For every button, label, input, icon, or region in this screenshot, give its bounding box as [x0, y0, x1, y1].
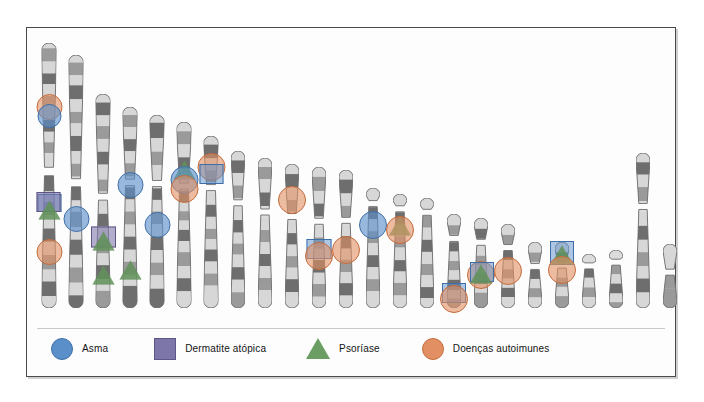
chromosome-10 [277, 28, 307, 328]
chromosome-13 [358, 28, 388, 328]
circle-blue-icon [51, 338, 73, 360]
karyogram-panel [27, 28, 675, 328]
chromosome-14 [385, 28, 415, 328]
chromosome-body-13 [366, 188, 380, 308]
legend-label-doencas-autoimunes: Doenças autoimunes [453, 343, 550, 354]
legend-item-asma: Asma [51, 338, 108, 360]
chromosome-18 [493, 28, 523, 328]
chromosome-Y [655, 28, 685, 328]
chromosome-body-21 [582, 254, 596, 308]
chromosome-body-Y [663, 244, 677, 308]
chromosome-11 [304, 28, 334, 328]
chromosome-21 [574, 28, 604, 328]
chromosome-body-11 [312, 167, 326, 308]
chromosome-body-X [636, 153, 650, 308]
chromosome-2 [61, 28, 91, 328]
chromosome-body-3 [96, 94, 111, 308]
chromosome-3 [88, 28, 118, 328]
chromosome-body-16 [447, 214, 461, 308]
chromosome-17 [466, 28, 496, 328]
figure-frame: Asma Dermatite atópica Psoríase Doenças … [26, 27, 676, 377]
chromosome-body-7 [204, 136, 219, 308]
chromosome-body-14 [393, 194, 407, 308]
chromosome-body-6 [177, 122, 192, 308]
legend-item-dermatite-atopica: Dermatite atópica [154, 338, 266, 360]
chromosome-5 [142, 28, 172, 328]
legend-label-dermatite-atopica: Dermatite atópica [185, 343, 266, 354]
chromosome-7 [196, 28, 226, 328]
chromosome-9 [250, 28, 280, 328]
legend-label-psoriase: Psoríase [339, 343, 380, 354]
circle-orange-icon [422, 338, 444, 360]
chromosome-body-18 [501, 224, 515, 308]
chromosome-19 [520, 28, 550, 328]
chromosome-1 [34, 28, 64, 328]
chromosome-body-2 [69, 55, 84, 308]
triangle-green-icon [306, 338, 330, 359]
chromosome-16 [439, 28, 469, 328]
chromosome-body-4 [123, 107, 138, 308]
chromosome-22 [601, 28, 631, 328]
chromosome-4 [115, 28, 145, 328]
chromosome-body-20 [555, 242, 569, 308]
chromosome-body-5 [150, 115, 165, 308]
legend-label-asma: Asma [82, 343, 108, 354]
square-purple-icon [154, 338, 176, 360]
chromosome-body-10 [285, 164, 299, 308]
chromosome-body-9 [258, 158, 272, 308]
chromosome-body-22 [609, 250, 623, 308]
chromosome-body-8 [231, 151, 245, 308]
chromosome-body-12 [339, 170, 353, 308]
legend-item-doencas-autoimunes: Doenças autoimunes [422, 338, 550, 360]
chromosome-body-1 [42, 43, 57, 308]
chromosome-X [628, 28, 658, 328]
legend-item-psoriase: Psoríase [306, 338, 380, 359]
chromosome-6 [169, 28, 199, 328]
chromosome-body-19 [528, 242, 542, 308]
chromosome-body-15 [420, 198, 434, 308]
chromosome-body-17 [474, 218, 488, 308]
chromosome-20 [547, 28, 577, 328]
legend: Asma Dermatite atópica Psoríase Doenças … [37, 328, 665, 368]
chromosome-8 [223, 28, 253, 328]
chromosome-15 [412, 28, 442, 328]
chromosome-12 [331, 28, 361, 328]
